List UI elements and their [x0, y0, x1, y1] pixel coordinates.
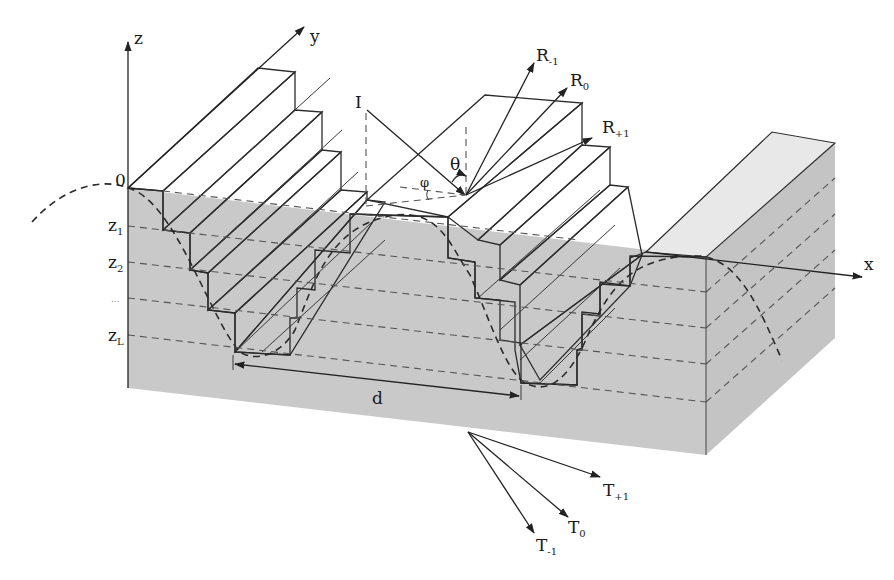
- theta-label: θ: [450, 154, 460, 174]
- phi-label: φ: [420, 175, 429, 190]
- transmitted-order-0: T0: [568, 517, 586, 539]
- z-axis-label: z: [134, 28, 143, 48]
- reflected-order-0: R0: [570, 70, 589, 92]
- transmitted-order-plus1: T+1: [603, 480, 629, 502]
- front-face: [128, 188, 706, 455]
- period-label: d: [372, 388, 383, 408]
- substrate-block: [128, 132, 835, 455]
- y-axis-label: y: [309, 26, 320, 46]
- origin-label: 0: [115, 170, 126, 190]
- transmitted-order-minus1: T-1: [536, 535, 557, 557]
- zL-label: zL: [108, 325, 124, 347]
- y-axis: [128, 27, 304, 188]
- ellipsis-label: ...: [111, 294, 120, 304]
- z1-label: z1: [108, 215, 123, 237]
- reflected-order-minus1: R-1: [536, 45, 559, 67]
- transmitted-rays: [468, 432, 600, 533]
- x-axis-label: x: [864, 254, 874, 274]
- reflected-order-plus1: R+1: [602, 117, 630, 139]
- incident-label: I: [355, 92, 362, 112]
- grating-diagram: z y x 0 z1 z2 ... zL I θ φ R-1 R0 R+1 d …: [0, 0, 894, 580]
- z2-label: z2: [108, 252, 123, 274]
